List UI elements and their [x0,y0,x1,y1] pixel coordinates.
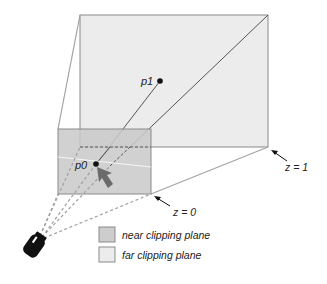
legend-swatch-near [99,227,115,242]
legend-swatch-far [99,247,115,262]
far-clipping-plane [80,15,268,147]
label-z1: z = 1 [284,161,308,173]
label-p0: p0 [74,159,88,171]
frustum-edge-top-left [58,15,80,129]
label-p1: p1 [140,75,153,87]
legend: near clipping plane far clipping plane [99,227,210,262]
point-p1 [157,78,163,84]
legend-label-far: far clipping plane [122,249,202,261]
legend-label-near: near clipping plane [122,229,210,241]
camera-icon [21,230,48,260]
near-clipping-plane [58,129,151,194]
frustum-diagram: p0 p1 z = 1 z = 0 near clipping plane fa… [0,0,327,284]
near-depth-arrow-icon [154,196,170,206]
point-p0 [93,161,99,167]
label-z0: z = 0 [172,206,196,218]
frustum-edge-bottom-right [151,147,268,194]
far-depth-arrow-icon [271,150,287,161]
